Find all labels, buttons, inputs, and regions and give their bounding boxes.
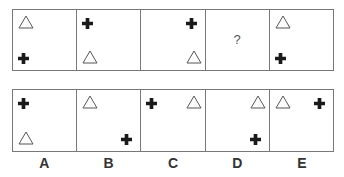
option-cell-a[interactable]	[13, 90, 77, 151]
sequence-cell-4: ?	[206, 10, 270, 70]
triangle-icon	[186, 95, 200, 109]
triangle-icon	[18, 15, 32, 29]
triangle-icon	[275, 95, 289, 109]
cross-icon	[186, 15, 200, 29]
triangle-icon	[82, 50, 96, 64]
triangle-icon	[186, 50, 200, 64]
options-row	[12, 89, 334, 152]
sequence-cell-2	[77, 10, 141, 70]
option-cell-e[interactable]	[270, 90, 333, 151]
sequence-cell-1	[13, 10, 77, 70]
sequence-cell-3	[141, 10, 205, 70]
option-cell-b[interactable]	[77, 90, 141, 151]
cross-icon	[314, 95, 328, 109]
question-mark: ?	[206, 32, 269, 47]
cross-icon	[121, 131, 135, 145]
triangle-icon	[250, 95, 264, 109]
option-label-e[interactable]: E	[270, 155, 334, 171]
option-label-b[interactable]: B	[76, 155, 140, 171]
cross-icon	[275, 50, 289, 64]
option-label-d[interactable]: D	[205, 155, 269, 171]
triangle-icon	[275, 15, 289, 29]
cross-icon	[146, 95, 160, 109]
sequence-row: ?	[12, 9, 334, 71]
option-label-a[interactable]: A	[12, 155, 76, 171]
cross-icon	[250, 131, 264, 145]
option-labels: A B C D E	[12, 155, 334, 171]
triangle-icon	[82, 95, 96, 109]
cross-icon	[18, 50, 32, 64]
option-cell-d[interactable]	[206, 90, 270, 151]
triangle-icon	[18, 131, 32, 145]
sequence-cell-5	[270, 10, 333, 70]
option-label-c[interactable]: C	[141, 155, 205, 171]
cross-icon	[18, 95, 32, 109]
option-cell-c[interactable]	[141, 90, 205, 151]
cross-icon	[82, 15, 96, 29]
